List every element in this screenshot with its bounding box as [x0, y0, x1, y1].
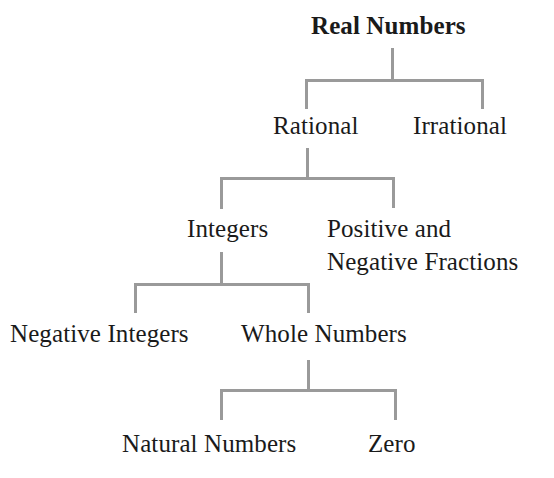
node-whole-numbers: Whole Numbers: [241, 317, 407, 350]
connector-bar: [134, 283, 310, 286]
node-real-numbers: Real Numbers: [311, 9, 466, 42]
node-natural-numbers: Natural Numbers: [122, 427, 296, 460]
connector-leg-right: [307, 283, 310, 313]
node-fractions-line-1: Positive and: [327, 212, 518, 245]
node-positive-negative-fractions: Positive and Negative Fractions: [327, 212, 518, 278]
connector-leg-left: [220, 177, 223, 209]
connector-leg-left: [134, 283, 137, 313]
node-zero: Zero: [368, 427, 416, 460]
node-negative-integers: Negative Integers: [10, 317, 189, 350]
connector-leg-left: [220, 389, 223, 420]
connector-stem: [307, 360, 310, 391]
connector-stem: [306, 148, 309, 180]
real-numbers-tree-diagram: Real Numbers Rational Irrational Integer…: [0, 0, 554, 478]
connector-leg-right: [394, 389, 397, 420]
node-irrational: Irrational: [413, 109, 507, 142]
connector-leg-right: [392, 177, 395, 208]
node-fractions-line-2: Negative Fractions: [327, 245, 518, 278]
node-rational: Rational: [273, 109, 359, 142]
connector-bar: [220, 177, 395, 180]
connector-bar: [220, 389, 397, 392]
connector-bar: [305, 79, 484, 82]
connector-stem: [391, 48, 394, 81]
connector-leg-right: [481, 79, 484, 109]
connector-stem: [220, 252, 223, 285]
connector-leg-left: [305, 79, 308, 109]
node-integers: Integers: [187, 212, 268, 245]
